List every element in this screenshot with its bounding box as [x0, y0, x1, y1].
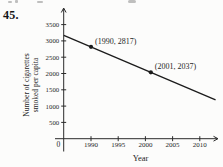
y-tick-label: 3000	[46, 37, 60, 44]
y-axis-label: Number of cigarettes	[22, 53, 31, 116]
x-tick-label: 1995	[111, 141, 126, 149]
data-point-label: (2001, 2037)	[155, 62, 197, 71]
y-tick-label: 3500	[46, 21, 60, 28]
y-tick-label: 1000	[46, 103, 60, 110]
y-tick-label: 500	[49, 119, 60, 126]
origin-label: 0	[56, 140, 60, 149]
y-tick-label: 1500	[46, 86, 60, 93]
x-tick-label: 2005	[166, 141, 181, 149]
data-point	[149, 70, 153, 74]
x-tick-label: 1990	[84, 141, 99, 149]
chart-svg: 5001000150020002500300035001990199520002…	[0, 0, 223, 167]
y-axis-label: smoked per capita	[31, 57, 40, 112]
y-tick-label: 2500	[46, 54, 60, 61]
x-tick-label: 2000	[138, 141, 153, 149]
data-point	[89, 45, 93, 49]
x-axis-label: Year	[133, 153, 149, 163]
x-tick-label: 2010	[193, 141, 208, 149]
textbook-figure: 45. 500100015002000250030003500199019952…	[0, 0, 223, 167]
data-point-label: (1990, 2817)	[95, 37, 137, 46]
y-tick-label: 2000	[46, 70, 60, 77]
